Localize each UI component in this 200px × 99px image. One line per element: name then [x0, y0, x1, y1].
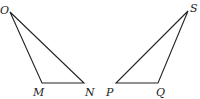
vertex-label-p: P [105, 86, 114, 99]
triangle-diagram: O M N S P Q [0, 0, 200, 99]
triangle-spq: S P Q [105, 2, 198, 99]
vertex-label-n: N [84, 86, 95, 99]
vertex-label-o: O [0, 4, 9, 17]
vertex-label-q: Q [156, 86, 165, 99]
vertex-label-m: M [32, 86, 45, 99]
triangle-spq-outline [116, 11, 188, 83]
vertex-label-s: S [190, 2, 198, 15]
triangle-omn: O M N [0, 4, 95, 99]
triangle-omn-outline [10, 12, 84, 83]
